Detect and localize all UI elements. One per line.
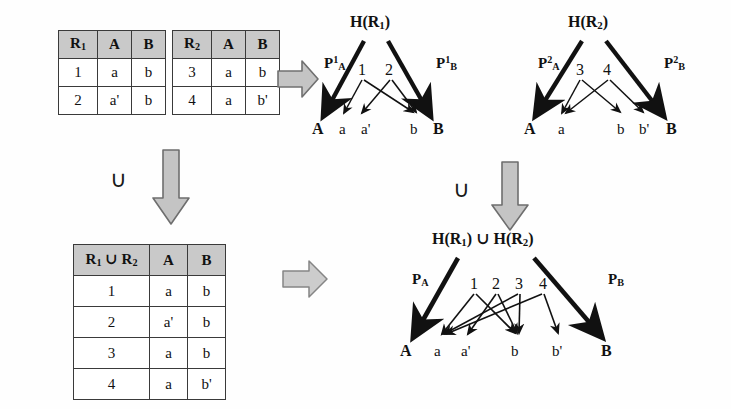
port-label-p1-b: P1B [436,55,457,72]
cell-r1-1-a: a' [98,87,132,115]
tuple-node-1: 1 [358,62,366,78]
table-row: 3 a b [74,338,226,369]
cell-r2-1-id: 4 [173,87,212,115]
cell-union-2-b: b [188,338,226,369]
union-operator-left: ∪ [110,168,127,191]
header-cell-r1-b: B [132,31,166,59]
port-label-p2-a: P2A [538,55,560,72]
graph-title-h-r2: H(R2) [568,14,608,31]
table-header-row: R2 A B [173,31,280,59]
tuple-node-3: 3 [576,62,584,78]
hypergraph-h-r2: H(R2) P2A P2B 3 4 A a b b' B [516,8,731,148]
table-r1: R1 A B 1 a b 2 a' b [58,30,166,115]
terminal-node-b-attr: B [433,121,444,137]
cell-union-0-a: a [150,276,188,307]
header-cell-r2-b: B [246,31,280,59]
table-union: R1 ∪ R2 A B 1 a b 2 a' b 3 a b 4 [73,244,226,400]
table-row: 1 a b [74,276,226,307]
block-arrow-right-bottom [281,258,329,300]
port-label-p-b: PB [608,272,624,288]
cell-r1-1-b: b [132,87,166,115]
header-cell-union-id: R1 ∪ R2 [74,245,150,276]
table-header-row: R1 ∪ R2 A B [74,245,226,276]
cell-union-3-a: a [150,369,188,400]
cell-r1-1-id: 2 [59,87,98,115]
port-label-p-a: PA [412,272,429,288]
cell-union-0-id: 1 [74,276,150,307]
header-cell-union-b: B [188,245,226,276]
table-row: 4 a b' [173,87,280,115]
table-r2: R2 A B 3 a b 4 a b' [172,30,280,115]
header-cell-r2-id: R2 [173,31,212,59]
header-cell-union-a: A [150,245,188,276]
cell-r1-0-a: a [98,59,132,87]
cell-r2-1-a: a [212,87,246,115]
hypergraph-h-union: H(R1) ∪ H(R2) PA PB 1 2 3 4 A a a' b b' … [386,228,731,373]
cell-union-1-id: 2 [74,307,150,338]
value-node-b-prime: b' [552,344,562,359]
terminal-node-b-attr: B [666,121,677,137]
cell-r2-0-b: b [246,59,280,87]
tuple-node-4: 4 [603,62,611,78]
table-row: 3 a b [173,59,280,87]
tuple-node-2: 2 [492,276,500,292]
tuple-node-3: 3 [515,276,523,292]
value-node-a-prime: a' [461,344,470,359]
value-node-a: a [339,122,346,137]
cell-union-1-a: a' [150,307,188,338]
cell-r2-0-id: 3 [173,59,212,87]
cell-union-1-b: b [188,307,226,338]
cell-union-3-id: 4 [74,369,150,400]
terminal-node-a-attr: A [400,343,412,359]
tuple-node-2: 2 [385,62,393,78]
cell-r2-0-a: a [212,59,246,87]
cell-r1-0-b: b [132,59,166,87]
cell-union-2-id: 3 [74,338,150,369]
cell-r2-1-b: b' [246,87,280,115]
cell-r1-0-id: 1 [59,59,98,87]
cell-union-0-b: b [188,276,226,307]
terminal-node-b-attr: B [601,343,612,359]
tuple-node-1: 1 [470,276,478,292]
value-node-b-prime: b' [639,122,649,137]
table-row: 2 a' b [74,307,226,338]
block-arrow-down-right [489,160,531,232]
graph-title-h-r1: H(R1) [350,14,390,31]
port-label-p2-b: P2B [664,55,685,72]
header-cell-r1-a: A [98,31,132,59]
value-node-b: b [511,344,519,359]
terminal-node-a-attr: A [312,121,324,137]
union-operator-right: ∪ [453,178,470,201]
tuple-node-4: 4 [539,276,547,292]
table-header-row: R1 A B [59,31,166,59]
graph-title-h-union: H(R1) ∪ H(R2) [432,231,534,248]
value-node-a: a [434,344,441,359]
value-node-a: a [558,122,565,137]
figure-canvas: R1 A B 1 a b 2 a' b R2 A B [0,0,731,409]
table-row: 2 a' b [59,87,166,115]
value-node-a-prime: a' [361,122,370,137]
cell-union-3-b: b' [188,369,226,400]
value-node-b: b [410,122,418,137]
terminal-node-a-attr: A [524,121,536,137]
hypergraph-h-r1: H(R1) P1A P1B 1 2 A a a' b B [300,8,520,148]
value-node-b: b [617,122,625,137]
table-row: 4 a b' [74,369,226,400]
table-row: 1 a b [59,59,166,87]
header-cell-r1-id: R1 [59,31,98,59]
port-label-p1-a: P1A [324,55,346,72]
block-arrow-down-left [150,148,192,226]
cell-union-2-a: a [150,338,188,369]
header-cell-r2-a: A [212,31,246,59]
